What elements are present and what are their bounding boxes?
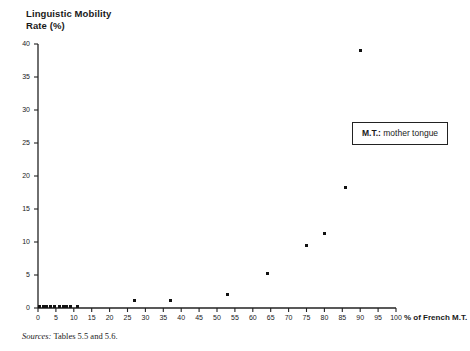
data-point [62, 305, 65, 308]
data-point [226, 293, 229, 296]
data-point [53, 305, 56, 308]
data-point [45, 305, 48, 308]
axis-lines [38, 44, 396, 308]
data-point [58, 305, 61, 308]
y-tick-label: 30 [12, 106, 30, 114]
x-axis-ticks [38, 308, 396, 312]
source-text: Tables 5.5 and 5.6. [53, 331, 117, 341]
data-point [133, 299, 136, 302]
y-tick-label: 0 [12, 304, 30, 312]
source-label: Sources: [22, 331, 51, 341]
y-tick-label: 5 [12, 271, 30, 279]
data-point [49, 305, 52, 308]
y-tick-label: 40 [12, 40, 30, 48]
legend-box: M.T.: mother tongue [352, 122, 448, 145]
y-tick-label: 10 [12, 238, 30, 246]
data-point [69, 305, 72, 308]
y-tick-label: 15 [12, 205, 30, 213]
legend-expansion: mother tongue [383, 128, 438, 138]
legend-abbr: M.T.: [362, 128, 381, 138]
y-tick-label: 35 [12, 73, 30, 81]
data-point [305, 244, 308, 247]
x-axis-title: % of French M.T. [404, 313, 467, 322]
data-point [344, 186, 347, 189]
y-tick-label: 20 [12, 172, 30, 180]
data-point [169, 299, 172, 302]
data-point [323, 232, 326, 235]
data-point [76, 305, 79, 308]
data-point [42, 305, 45, 308]
x-tick-label: 100 [386, 314, 406, 322]
data-point [65, 305, 68, 308]
data-point [266, 272, 269, 275]
y-tick-label: 25 [12, 139, 30, 147]
scatter-plot: Linguistic Mobility Rate (%) 05101520253… [0, 0, 470, 351]
data-point [38, 305, 41, 308]
chart-axes [0, 0, 470, 351]
source-note: Sources: Tables 5.5 and 5.6. [22, 331, 118, 341]
data-point [359, 49, 362, 52]
